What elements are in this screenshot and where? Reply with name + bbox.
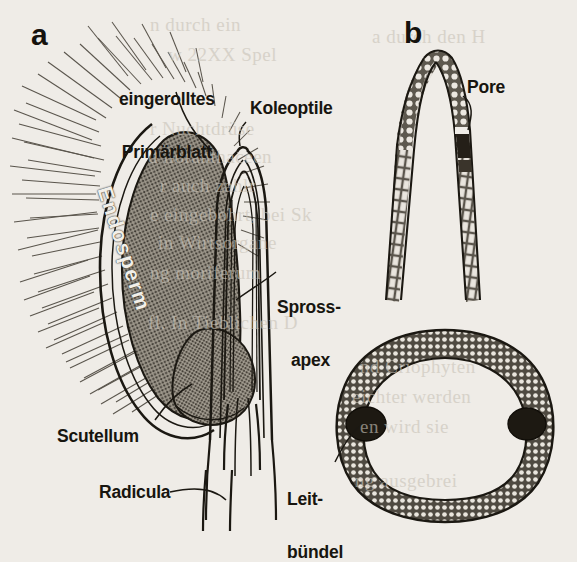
label-pore: Pore: [467, 79, 505, 97]
label-leitbuendel-line1: Leit-: [287, 491, 343, 509]
label-primaerblatt-line1: eingerolltes: [119, 91, 215, 109]
label-leitbuendel: Leit- bündel: [287, 455, 343, 562]
label-sprossapex-line1: Spross-: [277, 299, 341, 317]
label-radicula: Radicula: [99, 484, 170, 502]
panel-label-a: a: [31, 20, 48, 51]
label-leitbuendel-line2: bündel: [287, 544, 343, 562]
panel-label-b: b: [404, 18, 422, 49]
label-sprossapex: Spross- apex: [277, 263, 341, 406]
label-eingerolltes-primaerblatt: eingerolltes Primärblatt: [119, 55, 215, 198]
label-sprossapex-line2: apex: [277, 352, 341, 370]
label-primaerblatt-line2: Primärblatt: [119, 144, 215, 162]
label-scutellum: Scutellum: [57, 428, 139, 446]
label-koleoptile: Koleoptile: [250, 100, 333, 118]
